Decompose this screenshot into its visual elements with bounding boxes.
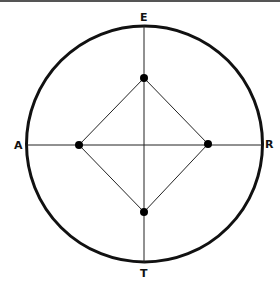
point-right <box>204 140 212 148</box>
point-top <box>140 74 148 82</box>
label-right: R <box>265 139 273 150</box>
label-bottom: T <box>140 268 148 279</box>
point-bottom <box>140 208 148 216</box>
label-left: A <box>14 140 23 151</box>
diagram-canvas <box>0 0 280 286</box>
point-left <box>75 141 83 149</box>
label-top: E <box>140 12 148 23</box>
